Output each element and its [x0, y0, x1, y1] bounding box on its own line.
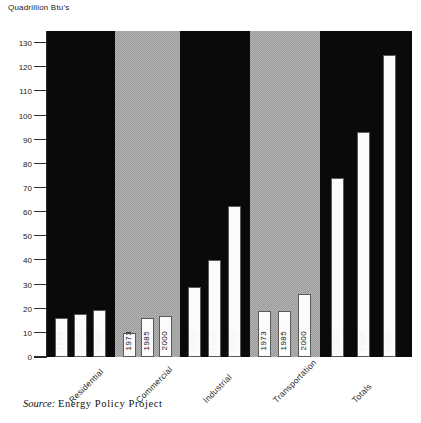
y-axis-tick-mark — [34, 211, 47, 212]
y-axis-tick-label: 0 — [28, 353, 32, 362]
y-axis-tick-mark — [34, 163, 47, 164]
y-axis-tick-label: 130 — [19, 39, 32, 48]
chart-figure: Quadrillion Btu's 0102030405060708090100… — [0, 0, 421, 423]
year-tick-label: 1985 — [359, 331, 367, 350]
group-label: Totals — [350, 381, 374, 405]
y-axis-tick-label: 10 — [23, 329, 32, 338]
year-tick-label: 1973 — [57, 331, 65, 350]
group-panel — [47, 31, 115, 357]
source-note: Source: Energy Policy Project — [23, 398, 162, 409]
y-axis-tick-label: 20 — [23, 305, 32, 314]
y-axis-tick-mark — [34, 115, 47, 116]
y-axis-tick-mark — [34, 332, 47, 333]
y-axis-tick-label: 120 — [19, 63, 32, 72]
y-axis-tick-label: 90 — [23, 136, 32, 145]
year-tick-label: 1985 — [210, 331, 218, 350]
year-tick-label: 1985 — [76, 331, 84, 350]
y-axis-tick-label: 30 — [23, 281, 32, 290]
y-axis-tick-label: 50 — [23, 232, 32, 241]
year-tick-label: 2000 — [385, 331, 393, 350]
y-axis-unit-label: Quadrillion Btu's — [8, 3, 69, 12]
y-axis-tick-label: 110 — [19, 87, 32, 96]
x-axis-origin-tick — [34, 357, 47, 358]
y-axis-tick-mark — [34, 90, 47, 91]
y-axis-tick-mark — [34, 259, 47, 260]
year-tick-label: 1973 — [260, 331, 268, 350]
y-axis-tick-mark — [34, 308, 47, 309]
y-axis-tick-label: 40 — [23, 256, 32, 265]
y-axis-tick-label: 100 — [19, 112, 32, 121]
year-tick-label: 1973 — [333, 331, 341, 350]
year-tick-label: 2000 — [95, 331, 103, 350]
source-text: Energy Policy Project — [58, 398, 163, 409]
year-tick-label: 1985 — [280, 331, 288, 350]
y-axis-tick-label: 70 — [23, 184, 32, 193]
year-tick-label: 2000 — [230, 331, 238, 350]
group-label: Transportation — [271, 357, 319, 405]
year-tick-label: 2000 — [161, 331, 169, 350]
bar — [357, 132, 370, 357]
y-axis-tick-mark — [34, 187, 47, 188]
y-axis-tick-mark — [34, 356, 47, 357]
y-axis-tick-mark — [34, 139, 47, 140]
y-axis-tick-mark — [34, 42, 47, 43]
bar — [383, 55, 396, 357]
year-tick-label: 1973 — [190, 331, 198, 350]
source-prefix: Source: — [23, 398, 55, 409]
group-panel — [115, 31, 180, 357]
year-tick-label: 1985 — [143, 331, 151, 350]
group-label: Industrial — [201, 372, 234, 405]
year-tick-label: 1973 — [125, 331, 133, 350]
y-axis-tick-mark — [34, 284, 47, 285]
y-axis-tick-mark — [34, 66, 47, 67]
year-tick-label: 2000 — [300, 331, 308, 350]
y-axis-tick-mark — [34, 235, 47, 236]
y-axis-tick-label: 80 — [23, 160, 32, 169]
plot-area — [47, 31, 412, 357]
y-axis-tick-label: 60 — [23, 208, 32, 217]
